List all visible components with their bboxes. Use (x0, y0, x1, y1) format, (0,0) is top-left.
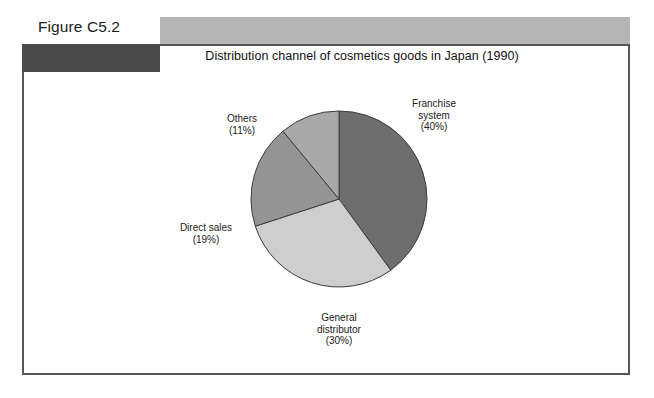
chart-title: Distribution channel of cosmetics goods … (0, 49, 654, 63)
pie-label-general-distributor-name-1: General (303, 312, 375, 324)
pie-slices (251, 111, 427, 287)
pie-label-general-distributor-value: (30%) (303, 335, 375, 347)
pie-chart (249, 109, 429, 289)
pie-label-franchise-system-name-2: system (396, 110, 472, 122)
header-gray-band (160, 17, 630, 44)
pie-label-direct-sales-value: (19%) (165, 234, 247, 246)
pie-label-others: Others (11%) (207, 113, 277, 136)
pie-label-general-distributor: General distributor (30%) (303, 312, 375, 347)
pie-label-franchise-system: Franchise system (40%) (396, 98, 472, 133)
figure-page: Figure C5.2 Distribution channel of cosm… (0, 0, 654, 398)
pie-label-general-distributor-name-2: distributor (303, 324, 375, 336)
pie-chart-svg (249, 109, 429, 289)
figure-number-label: Figure C5.2 (38, 18, 120, 36)
pie-label-franchise-system-name-1: Franchise (396, 98, 472, 110)
pie-label-others-name: Others (207, 113, 277, 125)
chart-title-text: Distribution channel of cosmetics goods … (135, 49, 518, 63)
pie-label-direct-sales-name: Direct sales (165, 222, 247, 234)
pie-label-direct-sales: Direct sales (19%) (165, 222, 247, 245)
pie-label-others-value: (11%) (207, 125, 277, 137)
pie-label-franchise-system-value: (40%) (396, 121, 472, 133)
